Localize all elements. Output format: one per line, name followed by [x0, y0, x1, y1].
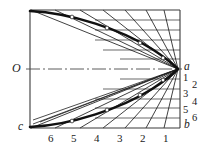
- right-tick-6: 6: [192, 113, 197, 124]
- right-tick-2: 2: [192, 80, 197, 91]
- bottom-tick-2: 2: [140, 133, 146, 144]
- apex-label-a: a: [184, 61, 190, 73]
- bottom-tick-4: 4: [94, 133, 100, 144]
- bottom-tick-5: 5: [71, 133, 77, 144]
- bottom-tick-6: 6: [48, 133, 54, 144]
- origin-label: O: [12, 62, 21, 74]
- right-tick-3: 3: [183, 89, 188, 100]
- lower-inner-chords: [33, 69, 178, 124]
- bottom-tick-1: 1: [163, 133, 169, 144]
- right-tick-4: 4: [192, 97, 197, 108]
- label-c: c: [18, 121, 23, 133]
- right-tick-1: 1: [183, 73, 188, 84]
- label-b: b: [184, 119, 190, 131]
- right-tick-5: 5: [183, 105, 188, 116]
- upper-ray-family: [31, 10, 178, 69]
- bottom-tick-3: 3: [117, 133, 123, 144]
- figure-root: O a b c 1 2 3 4 5 6 6 5 4 3 2 1: [0, 0, 215, 150]
